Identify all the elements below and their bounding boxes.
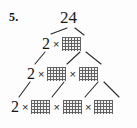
branch-lvl3-boxa-to-lvl4-boxa [52,82,64,97]
blank-answer-box[interactable] [47,67,66,81]
branch-lvl3-2-to-lvl4-2 [19,82,30,97]
root-number-24: 24 [60,9,77,26]
multiplication-sign: × [85,102,91,113]
multiplication-sign: × [53,39,59,50]
branch-root-to-left-2 [51,28,67,34]
branch-root-to-right-box [75,28,84,35]
factor-digit: 2 [27,66,35,82]
factor-tree-worksheet-item: 5. 24 2× 2×× 2××× [0,0,137,128]
blank-answer-box[interactable] [62,37,81,51]
multiplication-sign: × [53,102,59,113]
factor-row-level-4: 2××× [11,99,113,115]
branch-lvl3-boxb-to-lvl4-boxb [85,82,98,97]
multiplication-sign: × [69,69,75,80]
blank-answer-box[interactable] [94,100,113,114]
factor-row-level-2: 2× [42,36,81,52]
multiplication-sign: × [38,69,44,80]
factor-digit: 2 [11,99,19,115]
factor-digit: 2 [42,36,50,52]
blank-answer-box[interactable] [63,100,82,114]
factor-row-level-3: 2×× [27,66,98,82]
problem-number: 5. [9,11,18,23]
branch-lvl2-box-to-lvl3-box-b [86,52,101,64]
blank-answer-box[interactable] [31,100,50,114]
blank-answer-box[interactable] [79,67,98,81]
multiplication-sign: × [22,102,28,113]
branch-lvl2-box-to-lvl3-box-a [67,52,80,64]
branch-lvl2-2-to-lvl3-2 [35,52,45,64]
branch-lvl3-boxb-to-lvl4-boxc [104,82,119,97]
